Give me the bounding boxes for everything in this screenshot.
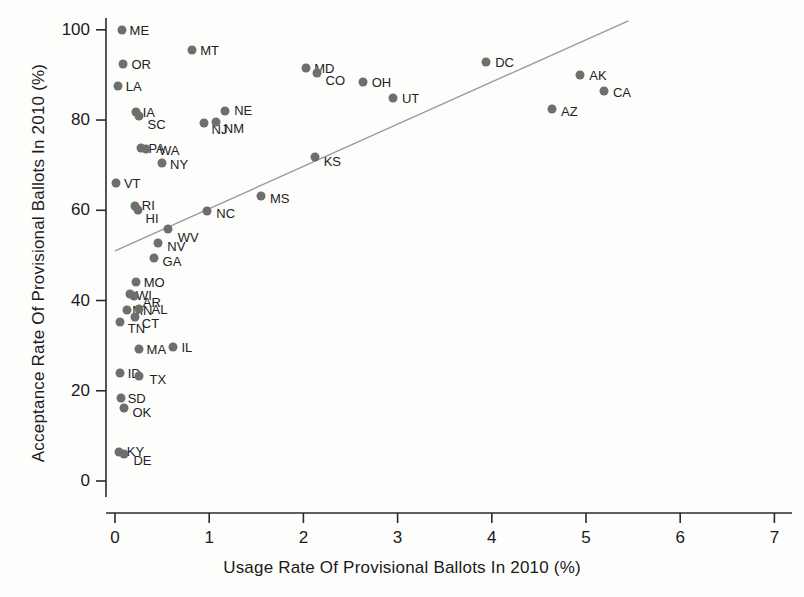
data-point-ut bbox=[388, 94, 397, 103]
y-axis-title-wrapper: Acceptance Rate Of Provisional Ballots I… bbox=[29, 3, 59, 523]
x-tick-label-5: 5 bbox=[581, 528, 590, 548]
point-label-al: AL bbox=[151, 301, 167, 316]
data-point-az bbox=[548, 105, 557, 114]
point-label-tn: TN bbox=[128, 321, 145, 336]
data-point-nv bbox=[154, 238, 163, 247]
point-label-hi: HI bbox=[146, 211, 159, 226]
x-axis-title: Usage Rate Of Provisional Ballots In 201… bbox=[0, 558, 804, 578]
point-label-ny: NY bbox=[170, 156, 188, 171]
data-point-co bbox=[312, 68, 321, 77]
data-point-hi bbox=[133, 206, 142, 215]
point-label-mt: MT bbox=[200, 43, 219, 58]
data-point-mt bbox=[188, 46, 197, 55]
data-point-la bbox=[113, 82, 122, 91]
point-label-ok: OK bbox=[132, 404, 151, 419]
data-point-wa bbox=[142, 145, 151, 154]
regression-trend-line bbox=[115, 21, 628, 251]
data-point-nc bbox=[203, 207, 212, 216]
data-point-ms bbox=[257, 191, 266, 200]
y-axis-title: Acceptance Rate Of Provisional Ballots I… bbox=[29, 3, 49, 523]
data-point-me bbox=[117, 25, 126, 34]
point-label-ak: AK bbox=[589, 67, 606, 82]
data-point-ca bbox=[599, 86, 608, 95]
point-label-ks: KS bbox=[324, 154, 341, 169]
point-label-nm: NM bbox=[224, 121, 244, 136]
point-label-ms: MS bbox=[270, 190, 290, 205]
point-label-dc: DC bbox=[495, 55, 514, 70]
point-label-vt: VT bbox=[124, 176, 141, 191]
data-point-ok bbox=[120, 403, 129, 412]
data-point-vt bbox=[111, 179, 120, 188]
data-point-or bbox=[119, 59, 128, 68]
point-label-or: OR bbox=[131, 56, 151, 71]
data-point-ak bbox=[576, 70, 585, 79]
data-point-tn bbox=[115, 318, 124, 327]
x-tick-label-0: 0 bbox=[110, 528, 119, 548]
point-label-ma: MA bbox=[147, 341, 167, 356]
x-tick-label-1: 1 bbox=[204, 528, 213, 548]
data-point-ar bbox=[129, 292, 138, 301]
x-tick-label-4: 4 bbox=[487, 528, 496, 548]
point-label-nv: NV bbox=[167, 238, 185, 253]
data-point-oh bbox=[358, 77, 367, 86]
data-point-nm bbox=[211, 118, 220, 127]
data-point-ga bbox=[149, 253, 158, 262]
point-label-ga: GA bbox=[163, 253, 182, 268]
data-point-de bbox=[120, 449, 129, 458]
data-point-sc bbox=[134, 111, 143, 120]
point-label-la: LA bbox=[126, 79, 142, 94]
point-label-me: ME bbox=[130, 22, 150, 37]
data-point-mn bbox=[123, 305, 132, 314]
data-point-ny bbox=[158, 158, 167, 167]
x-tick-label-3: 3 bbox=[393, 528, 402, 548]
point-label-tx: TX bbox=[149, 371, 166, 386]
point-label-az: AZ bbox=[561, 104, 578, 119]
scatter-plot-figure: MEMTORLAIASCNENJNMMDCOOHUTDCAKCAAZPAWANY… bbox=[0, 0, 804, 597]
tick-marks bbox=[96, 30, 774, 523]
point-label-ne: NE bbox=[234, 103, 252, 118]
data-point-ma bbox=[134, 344, 143, 353]
data-point-mo bbox=[131, 277, 140, 286]
data-point-ne bbox=[221, 107, 230, 116]
x-tick-label-7: 7 bbox=[770, 528, 779, 548]
point-label-co: CO bbox=[326, 72, 346, 87]
data-point-ks bbox=[310, 153, 319, 162]
point-label-il: IL bbox=[181, 339, 192, 354]
data-point-tx bbox=[135, 371, 144, 380]
point-label-ca: CA bbox=[613, 84, 631, 99]
data-point-md bbox=[302, 64, 311, 73]
point-label-nc: NC bbox=[216, 206, 235, 221]
data-point-id bbox=[115, 368, 124, 377]
data-point-dc bbox=[482, 58, 491, 67]
data-point-wv bbox=[163, 225, 172, 234]
point-label-sc: SC bbox=[148, 116, 166, 131]
data-point-nj bbox=[199, 119, 208, 128]
data-point-il bbox=[169, 342, 178, 351]
point-label-oh: OH bbox=[372, 74, 392, 89]
point-label-de: DE bbox=[133, 452, 151, 467]
axis-lines bbox=[106, 18, 792, 513]
data-point-sd bbox=[116, 394, 125, 403]
x-tick-label-2: 2 bbox=[299, 528, 308, 548]
x-tick-label-6: 6 bbox=[675, 528, 684, 548]
point-label-ut: UT bbox=[402, 91, 419, 106]
